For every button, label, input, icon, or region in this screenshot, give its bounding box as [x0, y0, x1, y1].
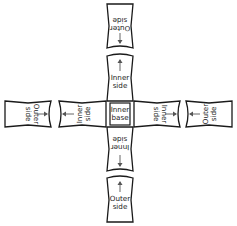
top-outer-label-2: side	[112, 16, 127, 25]
left-inner-flap: Inner side	[59, 101, 106, 127]
left-inner-label-2: side	[83, 106, 92, 121]
left-outer-flap: Outer side	[5, 101, 51, 127]
center-inner-base: Inner base	[110, 103, 130, 125]
top-outer-flap: Outer side	[107, 4, 133, 48]
bottom-outer-flap: Outer side	[107, 176, 133, 222]
bottom-inner-flap: Inner side	[107, 127, 133, 171]
base-label-2: base	[111, 113, 129, 122]
top-inner-flap: Inner side	[107, 54, 133, 101]
right-outer-label-2: side	[209, 106, 218, 121]
bottom-inner-label-2: side	[112, 135, 127, 144]
right-inner-label-2: side	[152, 107, 161, 122]
right-inner-flap: Inner side	[134, 101, 180, 127]
bottom-outer-label-2: side	[113, 202, 128, 211]
flap-diagram: Outer side Inner side Inner base Inner s…	[0, 0, 237, 226]
right-outer-flap: Outer side	[186, 101, 232, 127]
left-outer-label-2: side	[24, 107, 33, 122]
top-inner-label-2: side	[113, 81, 128, 90]
